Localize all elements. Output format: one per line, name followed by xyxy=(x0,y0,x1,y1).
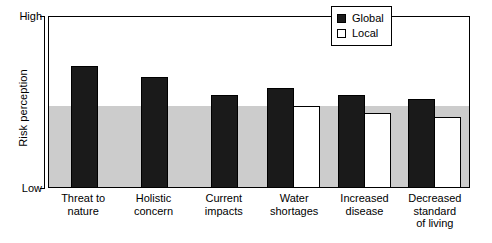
y-axis-tickmark-low xyxy=(40,188,45,189)
x-axis-label-2: Current impacts xyxy=(189,192,259,217)
filled-square-icon xyxy=(337,14,346,23)
bar-global-4 xyxy=(338,95,365,188)
x-axis-label-0: Threat to nature xyxy=(48,192,118,217)
x-axis-label-3: Water shortages xyxy=(259,192,329,217)
shaded-band xyxy=(49,106,469,188)
risk-perception-bar-chart: Risk perception High Low Global Local Th… xyxy=(0,0,492,243)
y-axis-line xyxy=(44,16,45,189)
legend-label-global: Global xyxy=(352,13,384,24)
bar-global-5 xyxy=(408,99,435,188)
open-square-icon xyxy=(337,29,346,38)
bar-local-3 xyxy=(293,106,320,188)
bar-global-0 xyxy=(71,66,98,188)
y-axis-tick-low: Low xyxy=(0,182,42,194)
bar-local-4 xyxy=(364,113,391,188)
plot-area xyxy=(48,16,470,188)
legend-label-local: Local xyxy=(352,28,378,39)
legend-item-local: Local xyxy=(337,26,384,40)
x-axis-label-5: Decreased standard of living xyxy=(400,192,470,230)
legend-item-global: Global xyxy=(337,11,384,25)
y-axis-title: Risk perception xyxy=(17,38,29,178)
chart-legend: Global Local xyxy=(331,6,392,46)
y-axis-tick-high: High xyxy=(0,10,42,22)
bar-global-1 xyxy=(141,77,168,188)
bar-global-3 xyxy=(267,88,294,188)
x-axis-label-1: Holistic concern xyxy=(118,192,188,217)
y-axis-tickmark-high xyxy=(40,16,45,17)
bar-global-2 xyxy=(211,95,238,188)
bar-local-5 xyxy=(434,117,461,188)
x-axis-label-4: Increased disease xyxy=(329,192,399,217)
